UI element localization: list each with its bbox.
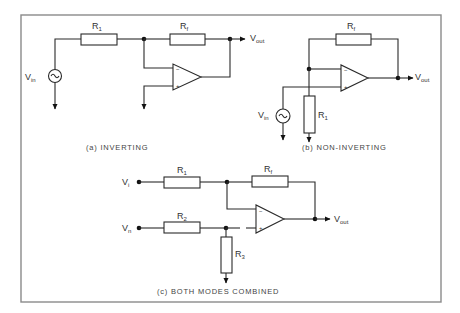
resistor-rf bbox=[170, 34, 205, 45]
minus-sign: − bbox=[259, 208, 263, 214]
minus-sign: − bbox=[344, 67, 348, 73]
plus-sign: + bbox=[176, 83, 180, 89]
resistor-r1 bbox=[304, 96, 315, 133]
minus-sign: − bbox=[176, 66, 180, 72]
r1-label: R1 bbox=[318, 110, 329, 121]
vin-label: Vin bbox=[25, 72, 36, 83]
plus-sign: + bbox=[344, 84, 348, 90]
circuit-combined: − + R1 Rf R2 R3 Vi Vn Vout (c) BOTH MODE… bbox=[122, 164, 349, 296]
rf-label: Rf bbox=[180, 21, 189, 32]
circuit-inverting: − + R1 Rf Vin Vout (a) INVERTING bbox=[25, 21, 265, 152]
plus-sign: + bbox=[259, 225, 263, 231]
r3-label: R3 bbox=[235, 249, 246, 260]
vin-label: Vin bbox=[258, 110, 269, 121]
resistor-rf bbox=[336, 34, 371, 45]
vout-label: Vout bbox=[250, 33, 265, 44]
resistor-r2 bbox=[164, 222, 200, 233]
resistor-rf bbox=[252, 176, 288, 187]
vi-label: Vi bbox=[122, 177, 129, 188]
r1-label: R1 bbox=[177, 165, 188, 176]
input-wire bbox=[55, 39, 81, 70]
caption-non-inverting: (b) NON-INVERTING bbox=[302, 143, 387, 152]
r1-label: R1 bbox=[92, 21, 103, 32]
vout-label: Vout bbox=[334, 214, 349, 225]
resistor-r1 bbox=[164, 177, 200, 188]
vn-label: Vn bbox=[122, 223, 131, 234]
rf-label: Rf bbox=[264, 164, 273, 175]
op-amp-circuits-diagram: − + R1 Rf Vin Vout (a) INVERTING − + bbox=[0, 0, 460, 313]
caption-combined: (c) BOTH MODES COMBINED bbox=[157, 287, 279, 296]
caption-inverting: (a) INVERTING bbox=[86, 143, 148, 152]
r2-label: R2 bbox=[177, 211, 188, 222]
vout-label: Vout bbox=[415, 72, 430, 83]
circuit-non-inverting: − + Rf R1 Vin Vout (b) NON-INVERTING bbox=[258, 21, 430, 152]
resistor-r1 bbox=[81, 34, 117, 45]
resistor-r3 bbox=[221, 237, 232, 273]
rf-label: Rf bbox=[347, 21, 356, 32]
ground-arrow bbox=[144, 86, 173, 109]
